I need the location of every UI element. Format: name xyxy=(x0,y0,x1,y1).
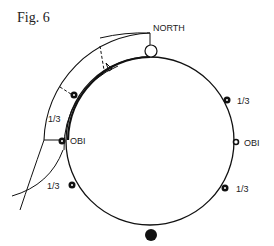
north-label: NORTH xyxy=(153,23,185,33)
label-third-upper-right: 1/3 xyxy=(237,96,250,106)
tail-line-1 xyxy=(20,140,44,210)
label-third-lower-left: 1/3 xyxy=(47,181,60,191)
figure-canvas: Fig. 6 NORTH xyxy=(0,0,274,246)
collar-inner-arc xyxy=(68,57,150,140)
dot-obi-right xyxy=(234,140,239,145)
label-obi-left: OBI xyxy=(70,136,86,146)
radial-marker-top xyxy=(100,46,104,70)
dot-bottom xyxy=(145,229,157,241)
north-ring-marker xyxy=(145,45,157,57)
label-third-lower-right: 1/3 xyxy=(236,184,249,194)
label-third-upper-left: 1/3 xyxy=(48,114,61,124)
label-obi-right: OBI xyxy=(244,138,260,148)
kimono-diagram: NORTH 1/3 OBI 1/3 1/3 OBI 1/3 xyxy=(0,0,274,246)
